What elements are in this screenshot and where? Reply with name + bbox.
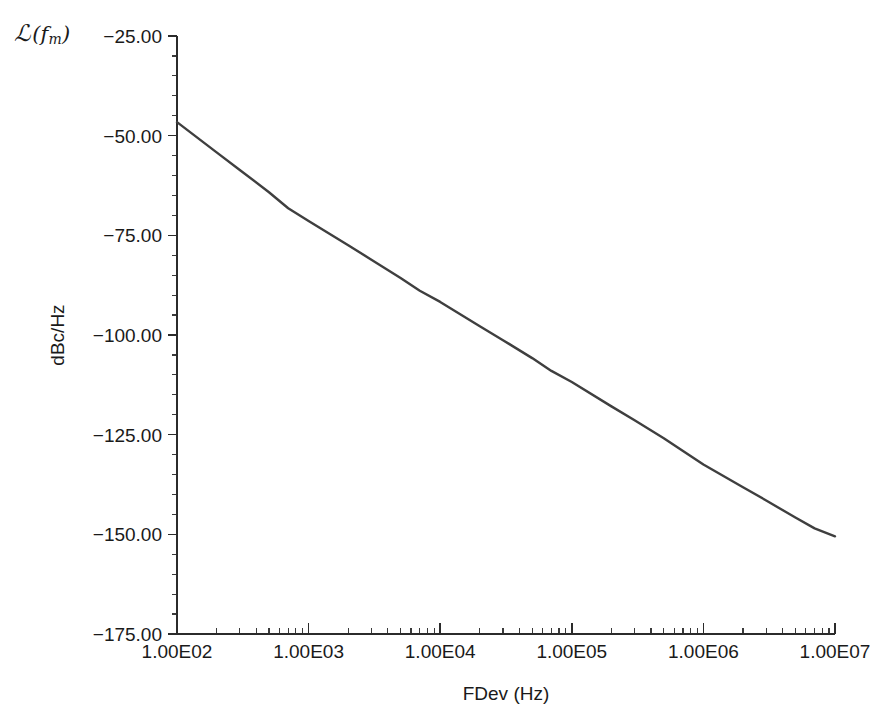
y-tick-label: −125.00 <box>93 425 162 446</box>
x-tick-label: 1.00E07 <box>800 641 871 662</box>
x-tick-label: 1.00E04 <box>405 641 476 662</box>
y-axis-label: dBc/Hz <box>47 304 68 365</box>
x-axis-tick-labels: 1.00E021.00E031.00E041.00E051.00E061.00E… <box>142 641 871 662</box>
y-tick-label: −50.00 <box>103 126 162 147</box>
y-tick-label: −150.00 <box>93 524 162 545</box>
x-tick-label: 1.00E05 <box>536 641 607 662</box>
y-tick-label: −100.00 <box>93 325 162 346</box>
y-tick-label: −25.00 <box>103 26 162 47</box>
axis-lines <box>177 36 835 634</box>
phase-noise-chart-figure: ℒ(fm) −25.00−50.00−75.00−100.00−125.00−1… <box>0 0 890 722</box>
page-caption-artifact <box>90 700 810 716</box>
x-tick-label: 1.00E02 <box>142 641 213 662</box>
x-tick-label: 1.00E06 <box>668 641 739 662</box>
chart-canvas: −25.00−50.00−75.00−100.00−125.00−150.00−… <box>0 0 890 722</box>
y-axis-ticks <box>168 36 177 634</box>
y-axis-tick-labels: −25.00−50.00−75.00−100.00−125.00−150.00−… <box>93 26 162 645</box>
y-tick-label: −75.00 <box>103 225 162 246</box>
data-series <box>177 122 835 536</box>
x-axis-ticks <box>177 623 835 634</box>
x-tick-label: 1.00E03 <box>273 641 344 662</box>
series-line-phase-noise <box>177 122 835 536</box>
